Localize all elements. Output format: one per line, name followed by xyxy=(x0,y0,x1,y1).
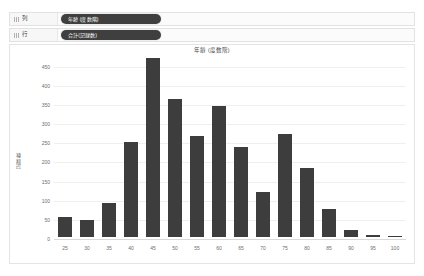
bar-slot xyxy=(76,59,98,237)
bar[interactable] xyxy=(322,209,336,237)
shelf-rows-dropzone[interactable]: 合計(記録数) xyxy=(58,29,414,41)
bar[interactable] xyxy=(300,168,314,237)
bar[interactable] xyxy=(80,220,94,237)
pivot-chart-app: 列 年齢 (度数階) 行 合計(記録数) 年齢 (度数階) 記録数 050100… xyxy=(0,0,424,276)
bar[interactable] xyxy=(344,230,358,237)
bar-slot xyxy=(384,59,406,237)
chart-title: 年齢 (度数階) xyxy=(10,48,414,54)
bar[interactable] xyxy=(278,134,292,237)
shelf-columns[interactable]: 列 年齢 (度数階) xyxy=(9,12,415,26)
x-tick-label: 30 xyxy=(76,246,98,251)
x-tick-label: 40 xyxy=(120,246,142,251)
bar[interactable] xyxy=(388,236,402,237)
x-tick-label: 60 xyxy=(208,246,230,251)
bar-slot xyxy=(252,59,274,237)
x-tick-label: 85 xyxy=(318,246,340,251)
plot-area: 記録数 050100150200250300350400450 25303540… xyxy=(10,59,410,263)
y-tick-label: 50 xyxy=(24,217,50,222)
y-tick-label: 400 xyxy=(24,83,50,88)
y-tick-label: 200 xyxy=(24,160,50,165)
x-tick-label: 70 xyxy=(252,246,274,251)
bar-slot xyxy=(208,59,230,237)
bar[interactable] xyxy=(58,217,72,237)
bar[interactable] xyxy=(102,203,116,237)
grid-icon xyxy=(14,33,19,38)
bar-series xyxy=(54,59,406,237)
y-tick-label: 350 xyxy=(24,102,50,107)
bar[interactable] xyxy=(190,136,204,237)
pill-columns-age[interactable]: 年齢 (度数階) xyxy=(61,14,161,24)
x-tick-label: 45 xyxy=(142,246,164,251)
bar[interactable] xyxy=(366,235,380,237)
x-tick-label: 80 xyxy=(296,246,318,251)
bar[interactable] xyxy=(234,147,248,237)
shelf-columns-dropzone[interactable]: 年齢 (度数階) xyxy=(58,13,414,25)
shelf-columns-label-cell: 列 xyxy=(10,13,58,25)
bar-slot xyxy=(186,59,208,237)
bar-slot xyxy=(98,59,120,237)
y-tick-label: 300 xyxy=(24,122,50,127)
y-axis-title: 記録数 xyxy=(14,153,21,169)
y-tick-label: 0 xyxy=(24,237,50,242)
y-tick-label: 100 xyxy=(24,198,50,203)
bar-slot xyxy=(274,59,296,237)
gridline xyxy=(54,239,406,240)
bar-slot xyxy=(296,59,318,237)
shelf-rows-label-cell: 行 xyxy=(10,29,58,41)
bar-slot xyxy=(120,59,142,237)
x-tick-label: 35 xyxy=(98,246,120,251)
bar-slot xyxy=(54,59,76,237)
y-tick-label: 450 xyxy=(24,64,50,69)
x-tick-label: 100 xyxy=(384,246,406,251)
bar-slot xyxy=(142,59,164,237)
x-tick-label: 55 xyxy=(186,246,208,251)
bar-slot xyxy=(318,59,340,237)
bar-slot xyxy=(164,59,186,237)
bar[interactable] xyxy=(146,58,160,237)
x-axis-ticks: 253035404550556065707580859095100 xyxy=(54,246,406,251)
x-tick-label: 25 xyxy=(54,246,76,251)
y-tick-label: 250 xyxy=(24,141,50,146)
x-tick-label: 65 xyxy=(230,246,252,251)
x-tick-label: 50 xyxy=(164,246,186,251)
bars-region xyxy=(54,59,406,237)
bar[interactable] xyxy=(256,192,270,237)
bar[interactable] xyxy=(212,106,226,237)
bar-slot xyxy=(362,59,384,237)
x-tick-label: 75 xyxy=(274,246,296,251)
x-tick-label: 95 xyxy=(362,246,384,251)
grid-icon xyxy=(14,17,19,22)
x-tick-label: 90 xyxy=(340,246,362,251)
chart-panel: 年齢 (度数階) 記録数 050100150200250300350400450… xyxy=(9,44,415,264)
bar[interactable] xyxy=(168,99,182,237)
shelf-rows[interactable]: 行 合計(記録数) xyxy=(9,28,415,42)
bar-slot xyxy=(340,59,362,237)
shelf-rows-label: 行 xyxy=(22,32,28,38)
bar[interactable] xyxy=(124,142,138,237)
shelf-columns-label: 列 xyxy=(22,16,28,22)
pill-rows-record-count[interactable]: 合計(記録数) xyxy=(61,30,161,40)
y-tick-label: 150 xyxy=(24,179,50,184)
bar-slot xyxy=(230,59,252,237)
shelf-container: 列 年齢 (度数階) 行 合計(記録数) xyxy=(9,12,415,44)
